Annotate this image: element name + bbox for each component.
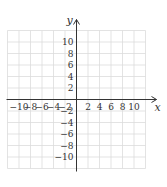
y-tick-label: −2 bbox=[60, 106, 73, 116]
x-tick-label: 6 bbox=[108, 102, 114, 112]
y-tick-label: −6 bbox=[60, 129, 74, 139]
x-tick-label: 10 bbox=[128, 102, 140, 112]
y-tick-label: −4 bbox=[60, 118, 74, 128]
x-axis-label: x bbox=[155, 101, 162, 114]
y-tick-label: 2 bbox=[68, 83, 74, 93]
y-tick-label: 8 bbox=[68, 49, 74, 59]
x-tick-label: 2 bbox=[85, 102, 91, 112]
y-tick-label: 4 bbox=[68, 72, 74, 82]
x-tick-label: 4 bbox=[97, 102, 103, 112]
x-tick-label: 8 bbox=[120, 102, 126, 112]
y-tick-label: 10 bbox=[62, 37, 74, 47]
y-axis-label: y bbox=[66, 14, 74, 27]
coordinate-plane: −10−8−6−4−2246810108642−2−4−6−8−10 x y bbox=[0, 0, 167, 187]
y-tick-label: 6 bbox=[68, 60, 74, 70]
y-tick-label: −10 bbox=[55, 152, 74, 162]
y-tick-label: −8 bbox=[60, 141, 74, 151]
